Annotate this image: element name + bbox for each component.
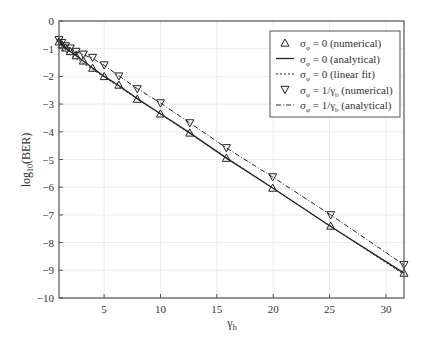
x-tick-label: 5 — [101, 303, 107, 315]
triangle-up-marker — [186, 129, 194, 136]
y-tick-label: −6 — [42, 181, 54, 193]
y-tick-label: −3 — [42, 98, 54, 110]
y-tick-label: −9 — [42, 264, 54, 276]
ber-chart: 0−1−2−3−4−5−6−7−8−9−10 51015202530 γb lo… — [0, 0, 427, 345]
triangle-down-marker — [133, 86, 141, 93]
y-tick-label: −1 — [42, 43, 54, 55]
x-tick-label: 30 — [380, 303, 392, 315]
x-tick-label: 15 — [211, 303, 223, 315]
y-tick-label: −10 — [37, 292, 55, 304]
x-tick-label: 25 — [324, 303, 336, 315]
triangle-down-marker — [222, 145, 230, 152]
triangle-down-marker — [186, 120, 194, 127]
y-tick-label: −4 — [42, 126, 54, 138]
x-tick-label: 20 — [268, 303, 280, 315]
y-tick-labels: 0−1−2−3−4−5−6−7−8−9−10 — [37, 15, 55, 304]
legend: σφ = 0 (numerical)σφ = 0 (analytical)σφ … — [270, 31, 400, 117]
y-tick-label: −7 — [42, 209, 54, 221]
triangle-up-marker — [327, 222, 335, 229]
triangle-up-marker — [269, 184, 277, 191]
x-tick-label: 10 — [155, 303, 167, 315]
y-tick-label: −8 — [42, 237, 54, 249]
triangle-down-marker — [156, 100, 164, 107]
triangle-down-marker — [269, 174, 277, 181]
y-axis-label: log10(BER) — [19, 133, 35, 188]
y-tick-label: −2 — [42, 70, 54, 82]
triangle-up-marker — [156, 110, 164, 117]
triangle-down-marker — [100, 62, 108, 69]
x-tick-labels: 51015202530 — [101, 303, 392, 315]
y-tick-label: −5 — [42, 154, 54, 166]
y-tick-label: 0 — [49, 15, 55, 27]
triangle-down-marker — [79, 51, 87, 58]
x-axis-label: γb — [226, 316, 236, 332]
chart-canvas: 0−1−2−3−4−5−6−7−8−9−10 51015202530 γb lo… — [0, 0, 427, 345]
